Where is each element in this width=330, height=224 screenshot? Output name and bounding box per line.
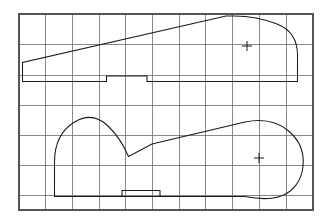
upper-profile-outline <box>23 16 298 82</box>
upper-centroid-mark <box>242 41 252 51</box>
lower-centroid-mark <box>254 153 264 163</box>
technical-drawing-canvas <box>0 0 330 224</box>
drawing-svg <box>0 0 330 224</box>
grid-vertical-lines <box>19 14 313 210</box>
centroid-marks-group <box>242 41 264 163</box>
grid-border-frame <box>19 14 313 210</box>
grid-horizontal-lines <box>19 14 313 210</box>
background-grid <box>19 14 313 210</box>
